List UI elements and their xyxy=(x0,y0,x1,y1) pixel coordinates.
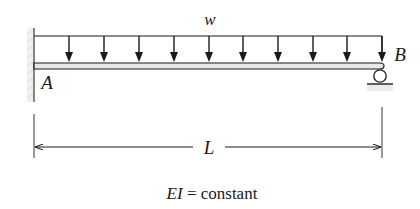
load-arrow-icon xyxy=(65,36,73,62)
beam-body xyxy=(34,63,384,69)
load-arrow-icon xyxy=(274,36,282,62)
ground-hatch xyxy=(367,85,393,91)
ei-symbol: EI xyxy=(166,184,184,203)
dimension-label: L xyxy=(203,137,215,158)
load-arrow-icon xyxy=(205,36,213,62)
roller-support-b xyxy=(367,70,393,91)
load-label: w xyxy=(204,10,216,29)
dimension-span: L xyxy=(34,107,382,158)
ei-note-text: = constant xyxy=(183,184,258,203)
load-arrow-icon xyxy=(309,36,317,62)
load-arrow-icon xyxy=(239,36,247,62)
fixed-support-a xyxy=(27,28,34,102)
distributed-load: w xyxy=(34,10,386,62)
support-a-label: A xyxy=(39,72,53,93)
load-arrows xyxy=(65,36,386,62)
load-arrow-icon xyxy=(135,36,143,62)
beam xyxy=(34,63,384,69)
load-arrow-icon xyxy=(100,36,108,62)
load-arrow-icon xyxy=(170,36,178,62)
roller-icon xyxy=(374,70,386,82)
support-b-label: B xyxy=(394,44,406,65)
beam-diagram: w A B L EI = constant xyxy=(0,0,420,209)
load-arrow-icon xyxy=(378,36,386,62)
ei-note: EI = constant xyxy=(166,184,258,203)
load-arrow-icon xyxy=(343,36,351,62)
